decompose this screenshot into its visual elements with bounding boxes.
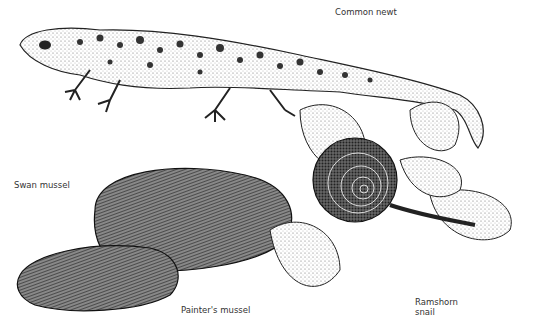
label-painters-mussel: Painter's mussel: [181, 306, 250, 316]
painters-mussel-drawing: [17, 246, 178, 311]
label-ramshorn-snail: Ramshorn snail: [415, 298, 458, 318]
illustration-plate: Common newt Swan mussel Painter's mussel…: [0, 0, 533, 330]
species-illustration: [0, 0, 533, 330]
label-swan-mussel: Swan mussel: [14, 181, 70, 191]
label-common-newt: Common newt: [335, 8, 397, 18]
